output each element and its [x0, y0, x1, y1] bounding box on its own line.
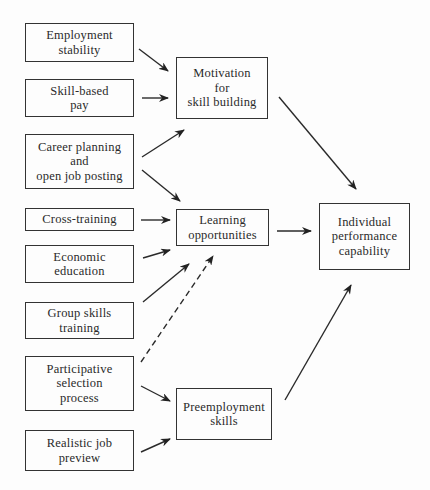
node-preemployment: Preemployment skills [176, 388, 272, 440]
edge-economic-to-learning [143, 250, 170, 258]
edge-preemployment-to-performance [285, 285, 351, 400]
node-cross-training: Cross-training [25, 208, 134, 231]
node-learning: Learning opportunities [176, 209, 269, 246]
node-group-skills-training: Group skills training [25, 302, 134, 339]
node-label: Economic education [53, 250, 105, 279]
edge-participative-to-preemployment [141, 386, 170, 401]
node-label: Participative selection process [47, 362, 113, 406]
node-label: Individual performance capability [332, 215, 397, 259]
node-label: Motivation for skill building [187, 66, 256, 110]
edge-participative-to-learning [141, 256, 213, 362]
node-economic-education: Economic education [25, 245, 134, 283]
node-career-planning: Career planning and open job posting [25, 134, 134, 189]
node-label: Career planning and open job posting [36, 140, 123, 184]
node-label: Realistic job preview [47, 436, 112, 465]
node-label: Preemployment skills [183, 400, 265, 429]
node-participative-selection: Participative selection process [25, 356, 134, 411]
node-realistic-job-preview: Realistic job preview [25, 430, 134, 471]
node-label: Learning opportunities [188, 213, 257, 242]
node-label: Group skills training [48, 306, 112, 335]
node-label: Skill-based pay [50, 84, 108, 113]
edge-career-to-learning [142, 170, 180, 201]
node-motivation: Motivation for skill building [176, 57, 268, 119]
node-label: Employment stability [46, 28, 113, 57]
edge-employment-to-motivation [139, 49, 168, 71]
edge-motivation-to-performance [279, 97, 356, 189]
edge-career-to-motivation [142, 130, 184, 157]
node-label: Cross-training [42, 212, 116, 227]
edge-group-to-learning [143, 264, 189, 302]
edge-realistic-to-preemployment [141, 439, 170, 452]
node-performance: Individual performance capability [319, 203, 410, 270]
node-employment-stability: Employment stability [25, 23, 134, 62]
node-skill-based-pay: Skill-based pay [25, 79, 134, 117]
